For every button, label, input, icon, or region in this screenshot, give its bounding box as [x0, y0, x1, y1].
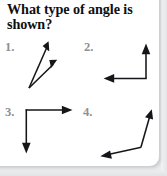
angle-4-ray-up-right	[141, 109, 153, 147]
angle-4-ray-down-left	[100, 147, 141, 159]
worksheet-screenshot: What type of angle is shown? 1. 2.	[0, 0, 167, 176]
worksheet-content: What type of angle is shown? 1. 2.	[0, 0, 167, 176]
angle-figure-4-obtuse	[0, 0, 167, 176]
